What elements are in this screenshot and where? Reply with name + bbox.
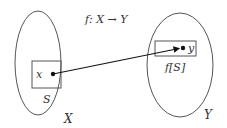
element-y-dot xyxy=(181,46,185,50)
subset-s-label: S xyxy=(43,93,51,106)
set-y-label: Y xyxy=(204,108,213,122)
mapping-label: f: X → Y xyxy=(84,13,129,26)
set-x-ellipse xyxy=(15,11,61,115)
mapping-arrow xyxy=(53,49,179,75)
image-fs-label: f[S] xyxy=(164,61,186,74)
element-x-label: x xyxy=(36,68,43,81)
function-diagram: x S X f: X → Y y f[S] Y xyxy=(0,0,227,128)
element-y-label: y xyxy=(187,42,195,55)
set-x-label: X xyxy=(63,112,73,126)
